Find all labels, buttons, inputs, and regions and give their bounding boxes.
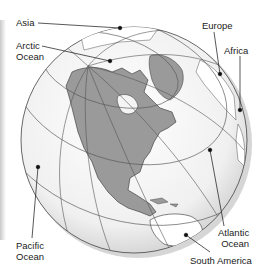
arctic-marker-dot	[108, 59, 112, 63]
pacific-marker-dot	[36, 165, 40, 169]
label-pacific-line1: Pacific	[16, 240, 44, 251]
label-asia: Asia	[16, 17, 34, 28]
label-africa: Africa	[224, 45, 248, 56]
label-europe: Europe	[202, 20, 233, 31]
label-pacific-ocean: Pacific Ocean	[16, 240, 44, 262]
label-arctic-line2: Ocean	[16, 51, 44, 62]
label-arctic-line1: Arctic	[16, 40, 44, 51]
label-atlantic-ocean: Atlantic Ocean	[218, 227, 249, 249]
asia-leader-line	[38, 23, 120, 28]
label-arctic-ocean: Arctic Ocean	[16, 40, 44, 62]
label-atlantic-line2: Ocean	[218, 238, 249, 249]
asia-marker-dot	[118, 26, 122, 30]
label-south-america: South America	[190, 255, 252, 266]
africa-marker-dot	[238, 108, 242, 112]
label-pacific-line2: Ocean	[16, 251, 44, 262]
south-america-marker-dot	[184, 233, 188, 237]
label-atlantic-line1: Atlantic	[218, 227, 249, 238]
atlantic-marker-dot	[208, 148, 212, 152]
europe-marker-dot	[218, 72, 222, 76]
